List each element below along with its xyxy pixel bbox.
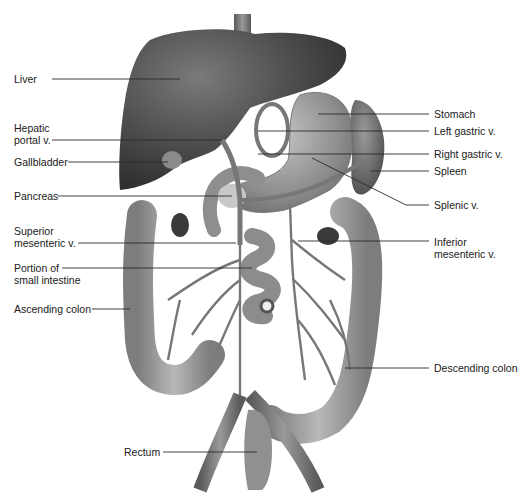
colon-opening-right — [317, 227, 339, 245]
label-liver: Liver — [14, 73, 37, 85]
label-inferior-mesenteric-v: Inferior mesenteric v. — [434, 236, 496, 260]
gastric-vein-loop — [256, 104, 288, 156]
label-ascending-colon: Ascending colon — [14, 303, 91, 315]
label-spleen: Spleen — [434, 165, 467, 177]
gallbladder-shape — [162, 151, 182, 169]
intestine-cut-end — [261, 300, 273, 312]
label-rectum: Rectum — [124, 446, 160, 458]
hepatic-portal-diagram: Liver Hepatic portal v. Gallbladder Panc… — [0, 0, 527, 499]
colon-opening-left — [171, 213, 189, 237]
label-splenic-v: Splenic v. — [434, 199, 479, 211]
label-right-gastric-v: Right gastric v. — [434, 148, 503, 160]
label-superior-mesenteric-v: Superior mesenteric v. — [14, 225, 76, 249]
iliac-vessel-left — [200, 395, 240, 490]
label-stomach: Stomach — [434, 108, 475, 120]
label-portion-of-small-intestine: Portion of small intestine — [14, 262, 81, 286]
label-left-gastric-v: Left gastric v. — [434, 125, 496, 137]
label-gallbladder: Gallbladder — [14, 156, 68, 168]
ascending-colon-shape — [138, 215, 210, 380]
descending-colon-shape — [270, 212, 367, 429]
label-hepatic-portal-v: Hepatic portal v. — [14, 122, 51, 146]
label-pancreas: Pancreas — [14, 190, 58, 202]
label-descending-colon: Descending colon — [434, 362, 517, 374]
